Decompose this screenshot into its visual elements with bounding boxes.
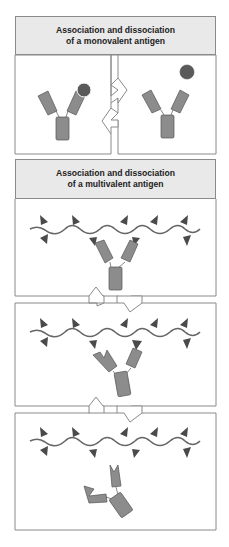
antibody-free-icon [142,65,194,138]
multivalent-antigen-1 [30,215,200,246]
antibody-monovalent-bound-icon [93,348,142,397]
equilibrium-arrows-icon [102,78,127,134]
diagram-canvas [0,0,229,547]
antibody-released-icon [84,465,133,518]
antibody-bivalent-bound-icon [95,240,138,290]
antibody-bound-icon [38,83,91,140]
multivalent-antigen-2 [30,318,200,350]
multivalent-antigen-3 [30,427,200,458]
